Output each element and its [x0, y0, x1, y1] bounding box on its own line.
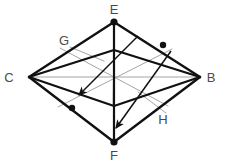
label-E-top: E — [110, 2, 119, 17]
marker-dot-on-edge-EB — [160, 42, 166, 48]
figure-canvas: E G C B H F — [0, 0, 225, 163]
geometry-figure: E G C B H F — [0, 0, 225, 163]
vertex-dot-F — [110, 138, 117, 145]
label-H: H — [158, 112, 167, 127]
label-F-bottom: F — [110, 148, 118, 163]
label-G: G — [59, 33, 69, 48]
label-C-left: C — [4, 70, 13, 85]
label-B-right: B — [207, 70, 216, 85]
vertex-dot-E — [110, 18, 117, 25]
marker-dot-on-edge-CF — [69, 105, 75, 111]
